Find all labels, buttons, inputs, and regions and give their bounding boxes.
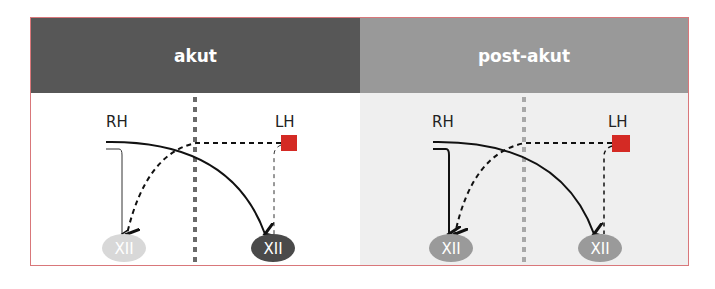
rh-label: RH <box>432 113 454 131</box>
panel-title: akut <box>31 18 360 93</box>
lesion-marker <box>281 135 297 151</box>
lh-label: LH <box>608 113 628 131</box>
panel-title: post-akut <box>360 18 688 93</box>
lh-label: LH <box>275 113 295 131</box>
svg-text:XII: XII <box>441 240 460 258</box>
panel-acute: akut RH LH XII XII <box>31 18 360 265</box>
svg-text:XII: XII <box>114 240 133 258</box>
acute-pathway-diagram: RH LH XII XII <box>31 93 360 267</box>
svg-text:XII: XII <box>263 240 282 258</box>
diagram-frame: akut RH LH XII XII post-akut <box>30 17 689 266</box>
panel-post-acute: post-akut RH LH XII XII <box>360 18 688 265</box>
post-acute-pathway-diagram: RH LH XII XII <box>360 93 688 267</box>
lesion-marker <box>612 135 630 152</box>
rh-label: RH <box>106 113 128 131</box>
svg-text:XII: XII <box>590 240 609 258</box>
